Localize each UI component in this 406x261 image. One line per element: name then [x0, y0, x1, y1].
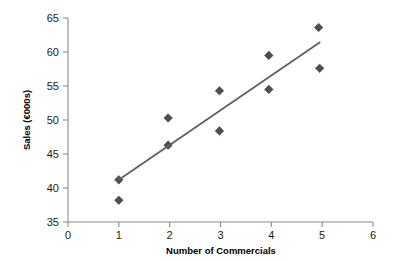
data-point-marker [215, 127, 224, 136]
y-tick-label: 60 [47, 46, 59, 58]
x-axis-title: Number of Commercials [166, 245, 276, 256]
y-tick-label: 35 [47, 216, 59, 228]
y-tick-label: 65 [47, 12, 59, 24]
x-tick-label: 6 [370, 229, 376, 241]
y-tick-label: 45 [47, 148, 59, 160]
x-axis: 0123456 [65, 222, 376, 241]
x-axis-ticks [68, 222, 373, 227]
y-axis: 35404550556065 [47, 12, 68, 228]
y-axis-title: Sales (€000s) [21, 90, 32, 150]
x-tick-label: 5 [319, 229, 325, 241]
data-point-marker [315, 64, 324, 73]
x-tick-label: 4 [268, 229, 274, 241]
y-axis-tick-labels: 35404550556065 [47, 12, 59, 228]
x-tick-label: 3 [217, 229, 223, 241]
data-point-marker [264, 85, 273, 94]
data-point-marker [215, 86, 224, 95]
data-point-marker [164, 114, 173, 123]
data-point-marker [314, 23, 323, 32]
data-series [115, 23, 324, 204]
y-tick-label: 40 [47, 182, 59, 194]
data-point-marker [115, 196, 124, 205]
y-axis-ticks [63, 18, 68, 222]
y-tick-label: 50 [47, 114, 59, 126]
x-axis-tick-labels: 0123456 [65, 229, 376, 241]
chart-svg: 35404550556065 0123456 Number of Commerc… [0, 0, 406, 261]
data-point-marker [264, 51, 273, 60]
x-tick-label: 2 [167, 229, 173, 241]
y-tick-label: 55 [47, 80, 59, 92]
x-tick-label: 0 [65, 229, 71, 241]
trend-line [119, 42, 320, 179]
scatter-chart: 35404550556065 0123456 Number of Commerc… [0, 0, 406, 261]
x-tick-label: 1 [116, 229, 122, 241]
